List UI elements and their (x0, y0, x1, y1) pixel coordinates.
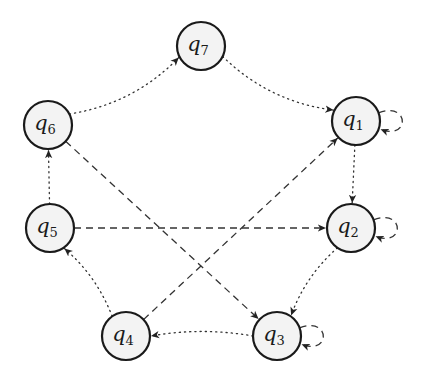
nodes: q1q2q3q4q5q6q7 (24, 22, 380, 360)
state-node-q4: q4 (102, 312, 150, 360)
edge-q1-q1 (379, 111, 403, 132)
edge-q4-q1 (144, 138, 338, 320)
state-node-q3: q3 (253, 312, 301, 360)
edge-q2-q3 (291, 248, 337, 316)
state-node-q2: q2 (327, 204, 375, 252)
state-node-q6: q6 (24, 101, 72, 149)
state-node-q5: q5 (26, 204, 74, 252)
edge-q4-q5 (64, 248, 112, 316)
edge-q7-q1 (223, 56, 334, 110)
edge-q6-q7 (69, 57, 178, 114)
edge-q6-q3 (66, 141, 259, 319)
edge-q3-q4 (151, 331, 253, 336)
edge-q3-q3 (300, 326, 324, 347)
edge-q5-q6 (48, 150, 49, 204)
automaton-diagram: q1q2q3q4q5q6q7 (0, 0, 443, 380)
state-node-q1: q1 (332, 97, 380, 145)
edge-q1-q2 (352, 145, 355, 203)
state-node-q7: q7 (177, 22, 225, 70)
edge-q2-q2 (374, 218, 398, 239)
